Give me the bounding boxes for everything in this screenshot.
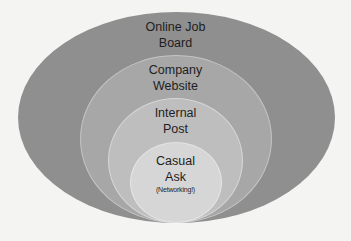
diagram-canvas: Online Job Board Company Website Interna… [0, 0, 351, 241]
label-casual-ask: Casual Ask (Networking!) [0, 153, 351, 194]
label-line: Company [0, 62, 351, 78]
label-line: Ask [0, 169, 351, 185]
label-line: Casual [0, 153, 351, 169]
label-sublabel: (Networking!) [0, 185, 351, 194]
label-internal-post: Internal Post [0, 105, 351, 137]
label-line: Board [0, 35, 351, 51]
label-line: Website [0, 78, 351, 94]
label-line: Post [0, 121, 351, 137]
label-line: Internal [0, 105, 351, 121]
label-company-website: Company Website [0, 62, 351, 94]
label-line: Online Job [0, 19, 351, 35]
label-online-job-board: Online Job Board [0, 19, 351, 51]
